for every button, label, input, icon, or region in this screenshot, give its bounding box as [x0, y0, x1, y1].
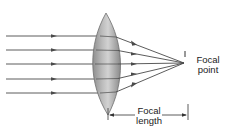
- converging-rays: [116, 37, 184, 92]
- focal-point-label: Focal point: [193, 55, 223, 75]
- focal-length-label-line2: length: [134, 116, 164, 126]
- converging-ray-arrows: [131, 41, 137, 88]
- focal-length-label: Focal length: [134, 106, 164, 126]
- focal-point-label-line2: point: [193, 65, 223, 75]
- incoming-ray-arrows: [51, 34, 57, 94]
